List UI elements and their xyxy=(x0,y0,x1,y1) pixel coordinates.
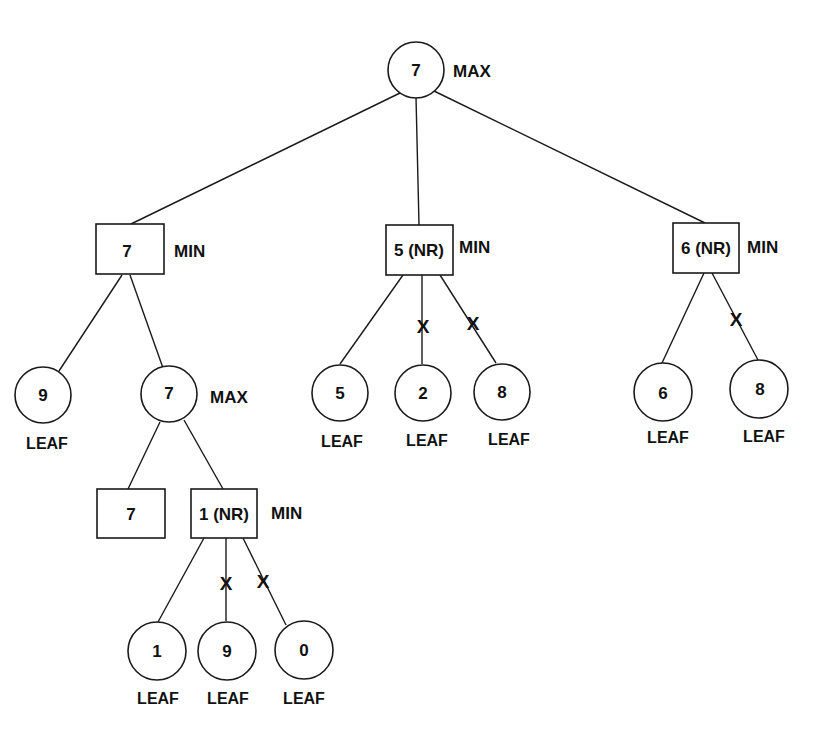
minimax-tree-diagram: X X X X X 7 MAX 7 MIN 5 (NR) MIN 6 (NR) … xyxy=(0,0,825,744)
node-min-right: 6 (NR) MIN xyxy=(673,223,778,273)
leaf-label: LEAF xyxy=(743,428,785,445)
node-type-label: MIN xyxy=(747,238,778,257)
node-value: 9 xyxy=(222,642,231,661)
node-type-label: MAX xyxy=(453,62,491,81)
edge-min-inner-leaf-1 xyxy=(158,538,204,622)
node-value: 1 xyxy=(152,642,161,661)
node-value: 0 xyxy=(299,641,308,660)
node-value: 8 xyxy=(755,380,764,399)
node-value: 9 xyxy=(38,386,47,405)
edge-min-mid-leaf-5 xyxy=(340,275,403,364)
edge-root-min-mid xyxy=(416,97,419,225)
node-value: 7 xyxy=(164,384,173,403)
leaf-label: LEAF xyxy=(207,690,249,707)
edge-root-min-left xyxy=(131,93,400,224)
node-type-label: MIN xyxy=(174,242,205,261)
edge-min-left-leaf-9 xyxy=(59,275,122,371)
node-type-label: MIN xyxy=(459,238,490,257)
prune-mark-right-leaf-8: X xyxy=(730,309,743,330)
node-value: 5 xyxy=(335,384,344,403)
prune-mark-inner-leaf-0: X xyxy=(257,571,270,592)
node-value: 1 (NR) xyxy=(199,505,249,524)
node-max-inner: 7 MAX xyxy=(141,366,248,422)
node-leaf-9b: 9 LEAF xyxy=(198,622,256,707)
edge-min-right-leaf-6 xyxy=(662,273,704,363)
leaf-label: LEAF xyxy=(647,429,689,446)
node-value: 7 xyxy=(126,505,135,524)
edges xyxy=(59,91,758,625)
node-leaf-8b: 8 LEAF xyxy=(730,360,788,445)
leaf-label: LEAF xyxy=(26,435,68,452)
node-value: 7 xyxy=(122,242,131,261)
edge-max-inner-min-inner xyxy=(184,420,223,489)
node-leaf-9a: 9 LEAF xyxy=(15,367,71,452)
leaf-label: LEAF xyxy=(137,690,179,707)
leaf-label: LEAF xyxy=(406,432,448,449)
node-value: 7 xyxy=(411,61,420,80)
prune-mark-mid-leaf-8: X xyxy=(467,313,480,334)
node-root: 7 MAX xyxy=(388,42,491,98)
leaf-label: LEAF xyxy=(283,690,325,707)
node-leaf-8a: 8 LEAF xyxy=(474,364,530,448)
edge-min-left-max-inner xyxy=(130,275,163,368)
node-value: 5 (NR) xyxy=(394,241,444,260)
edge-root-min-right xyxy=(434,91,705,223)
node-min-left: 7 MIN xyxy=(96,224,205,274)
node-leaf-6: 6 LEAF xyxy=(634,363,692,446)
node-leaf-5: 5 LEAF xyxy=(312,365,368,450)
node-type-label: MIN xyxy=(271,504,302,523)
node-type-label: MAX xyxy=(210,388,248,407)
node-leaf-2: 2 LEAF xyxy=(395,365,451,449)
prune-mark-inner-leaf-9: X xyxy=(220,573,233,594)
node-leaf-1: 1 LEAF xyxy=(128,622,186,707)
node-min-mid: 5 (NR) MIN xyxy=(386,225,490,275)
node-box-7: 7 xyxy=(97,489,165,538)
leaf-label: LEAF xyxy=(321,433,363,450)
leaf-label: LEAF xyxy=(488,431,530,448)
node-value: 6 (NR) xyxy=(681,239,731,258)
prune-mark-mid-leaf-2: X xyxy=(417,316,430,337)
prune-marks: X X X X X xyxy=(220,309,743,594)
node-value: 6 xyxy=(658,384,667,403)
node-value: 2 xyxy=(418,384,427,403)
edge-max-inner-box-7 xyxy=(128,422,160,489)
node-min-inner: 1 (NR) MIN xyxy=(191,489,302,538)
node-value: 8 xyxy=(497,383,506,402)
node-leaf-0: 0 LEAF xyxy=(275,621,333,707)
